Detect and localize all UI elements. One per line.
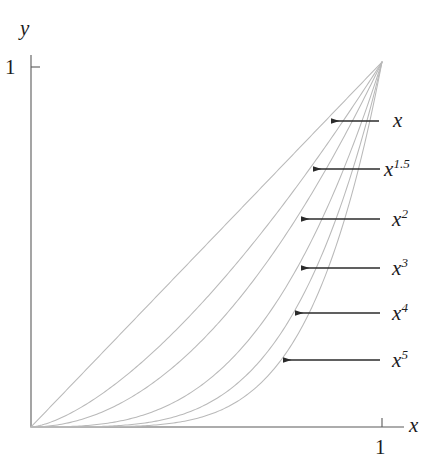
curve-label-x-2: x2 [392, 209, 408, 230]
x-tick-label-1: 1 [375, 437, 386, 458]
y-axis-label: y [20, 18, 30, 39]
curve-label-x-1-5: x1.5 [384, 159, 410, 180]
curve-label-x-4: x4 [392, 303, 408, 324]
axes-group [31, 55, 404, 427]
annotation-arrows-group [283, 121, 380, 360]
curves-group [31, 62, 382, 427]
curve-x [31, 62, 382, 427]
x-axis-label: x [409, 415, 419, 436]
plot-svg [0, 0, 423, 467]
y-tick-label-1: 1 [5, 57, 16, 78]
curve-label-x-3: x3 [392, 258, 408, 279]
curve-label-x-5: x5 [392, 350, 408, 371]
curve-label-x: x [393, 110, 403, 131]
